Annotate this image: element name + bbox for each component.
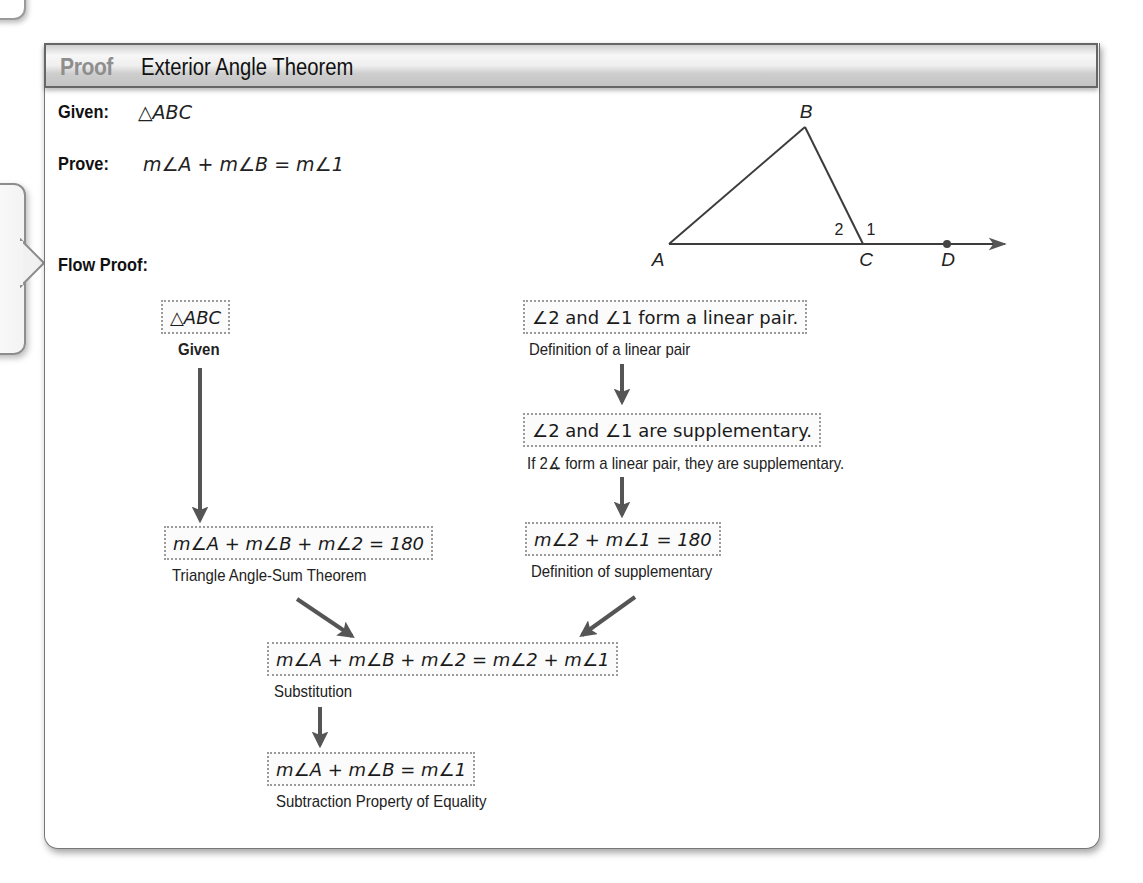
flow-arrow-sum180-to-substitution bbox=[582, 597, 635, 635]
step-substitution-box: m∠A + m∠B + m∠2 = m∠2 + m∠1 bbox=[267, 642, 618, 676]
angle-label-2: 2 bbox=[835, 221, 844, 238]
step-given-box: △ABC bbox=[161, 300, 230, 334]
step-substitution-reason: Substitution bbox=[274, 682, 352, 702]
step-linear-pair-reason: Definition of a linear pair bbox=[529, 340, 690, 360]
vertex-label-b: B bbox=[800, 101, 813, 122]
point-d-dot bbox=[943, 240, 951, 248]
flow-arrow-anglesum-to-substitution bbox=[297, 599, 352, 636]
step-conclusion-reason: Subtraction Property of Equality bbox=[276, 792, 486, 812]
step-linear-pair-box: ∠2 and ∠1 form a linear pair. bbox=[523, 300, 807, 334]
step-supplementary-reason: If 2∡ form a linear pair, they are suppl… bbox=[527, 453, 844, 474]
step-supplementary-box: ∠2 and ∠1 are supplementary. bbox=[523, 413, 821, 447]
step-sum-180-box: m∠2 + m∠1 = 180 bbox=[525, 522, 721, 556]
segment-ab bbox=[669, 127, 805, 244]
step-angle-sum-reason: Triangle Angle-Sum Theorem bbox=[172, 566, 367, 586]
step-given-reason: Given bbox=[178, 340, 220, 360]
vertex-label-c: C bbox=[859, 249, 873, 270]
step-sum-180-reason: Definition of supplementary bbox=[531, 562, 712, 582]
vertex-label-a: A bbox=[651, 249, 665, 270]
angle-label-1: 1 bbox=[867, 221, 876, 238]
vertex-label-d: D bbox=[941, 249, 955, 270]
step-angle-sum-box: m∠A + m∠B + m∠2 = 180 bbox=[164, 526, 433, 560]
step-conclusion-box: m∠A + m∠B = m∠1 bbox=[267, 752, 475, 786]
